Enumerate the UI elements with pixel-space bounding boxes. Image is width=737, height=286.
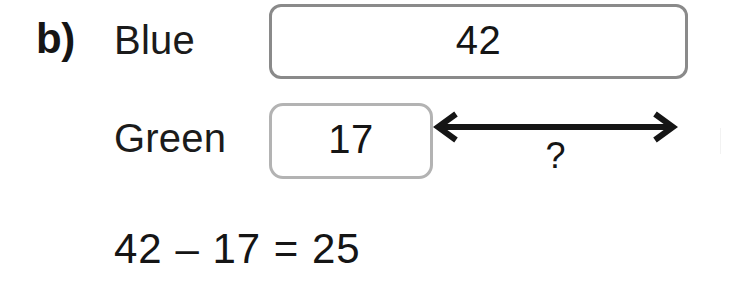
equation-line: 42 – 17 = 25	[114, 228, 361, 270]
scan-artifact	[720, 128, 721, 154]
bar-value-blue: 42	[456, 20, 502, 60]
bar-value-green: 17	[328, 119, 374, 159]
bar-label-blue: Blue	[114, 20, 195, 60]
part-label: b)	[36, 18, 75, 60]
difference-unknown-label: ?	[433, 138, 678, 174]
bar-green: 17	[269, 103, 433, 179]
worksheet-bar-model-page: b) Blue 42 Green 17 ? 42 – 17 = 25	[0, 0, 737, 286]
bar-label-green: Green	[114, 118, 226, 158]
bar-blue: 42	[269, 4, 688, 79]
